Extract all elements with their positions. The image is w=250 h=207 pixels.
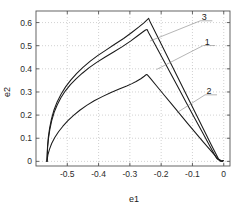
series-label-1: 1	[205, 37, 210, 47]
leader-line-1	[156, 46, 215, 70]
x-tick-label: -0.4	[91, 169, 106, 179]
y-axis-title: e2	[2, 87, 12, 97]
x-tick-label: -0.3	[123, 169, 138, 179]
y-tick-label: 0	[27, 156, 32, 166]
y-tick-label: 0.5	[20, 41, 32, 51]
y-tick-label: 0.2	[20, 110, 32, 120]
series-label-3: 3	[202, 12, 207, 22]
series-line-2	[47, 75, 223, 162]
y-tick-label: 0.6	[20, 18, 32, 28]
y-tick-label: 0.1	[20, 133, 32, 143]
series-leader-lines	[150, 21, 217, 113]
chart-canvas: -0.5-0.4-0.3-0.2-0.10 00.10.20.30.40.50.…	[0, 0, 250, 207]
leader-line-2	[177, 95, 217, 113]
x-tick-label: -0.5	[60, 169, 75, 179]
series-labels: 123	[202, 12, 212, 96]
x-tick-label: -0.2	[154, 169, 169, 179]
x-tick-labels: -0.5-0.4-0.3-0.2-0.10	[60, 169, 226, 179]
leader-line-3	[150, 21, 212, 41]
series-line-3	[47, 18, 223, 161]
chart-figure: -0.5-0.4-0.3-0.2-0.10 00.10.20.30.40.50.…	[0, 0, 250, 207]
y-tick-label: 0.3	[20, 87, 32, 97]
x-tick-label: 0	[221, 169, 226, 179]
y-tick-label: 0.4	[20, 64, 32, 74]
x-tick-label: -0.1	[185, 169, 200, 179]
data-series	[47, 18, 223, 161]
series-label-2: 2	[207, 86, 212, 96]
x-axis-title: e1	[129, 194, 139, 204]
y-tick-labels: 00.10.20.30.40.50.6	[20, 18, 32, 167]
